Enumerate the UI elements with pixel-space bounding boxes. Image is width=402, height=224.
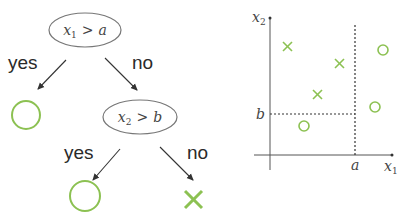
root-no-label: no [132,52,153,73]
root-node: x1>a [49,13,121,47]
cross-point-icon [313,90,322,99]
cross-point-icon [335,59,344,68]
child-no-label: no [187,142,208,163]
decision-tree-figure: x1>a yes no x2>b yes no x2 x1 b a [0,0,402,224]
child-node: x2>b [103,100,177,134]
leaf-cross-icon [185,191,202,208]
x-axis-label: x1 [384,158,398,176]
feature-space-plot: x2 x1 b a [252,9,398,176]
leaf-circle-icon [12,101,40,129]
decision-tree: x1>a yes no x2>b yes no [8,13,208,211]
child-node-label: x2>b [118,109,162,127]
root-yes-arrow [38,60,66,89]
root-yes-label: yes [8,52,38,73]
circle-point-icon [370,102,380,112]
circle-point-icon [378,45,388,55]
circle-point-icon [299,121,309,131]
threshold-b-label: b [256,106,265,122]
threshold-a-label: a [351,157,359,173]
child-yes-arrow [93,149,120,180]
leaf-circle-icon [70,181,100,211]
y-axis-label: x2 [252,9,266,27]
root-node-label: x1>a [63,22,107,40]
cross-point-icon [283,42,292,51]
child-yes-label: yes [64,142,94,163]
